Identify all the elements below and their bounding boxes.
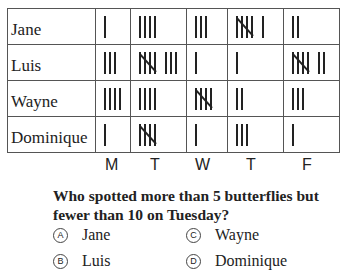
tally-group [104,124,109,146]
tally-marks [131,117,186,152]
tally-cell [228,45,284,81]
tally-marks [284,117,339,152]
table-row: Luis [8,45,340,81]
tally-stick [236,52,238,74]
tally-cell [284,9,340,45]
tally-stick [139,16,141,38]
tally-stick [236,88,238,110]
answer-bubble-b[interactable]: B [53,254,68,269]
tally-stick [205,16,207,38]
day-label-fri: F [302,156,312,174]
tally-stick [149,88,151,110]
tally-group [195,52,200,74]
option-d[interactable]: D Dominique [186,252,287,270]
tally-stick [195,52,197,74]
tally-group [292,124,297,146]
table-row: Dominique [8,117,340,153]
tally-stick [104,88,106,110]
answer-bubble-c[interactable]: C [186,228,201,243]
student-name: Wayne [8,81,96,117]
tally-stick [114,88,116,110]
tally-group [195,124,200,146]
tally-marks [96,45,130,80]
tally-group [139,16,159,38]
tally-cell [228,117,284,153]
tally-marks [284,45,339,80]
tally-group [104,16,109,38]
tally-stick [246,124,248,146]
answer-bubble-a[interactable]: A [53,228,68,243]
tally-marks [187,81,227,116]
tally-group [139,124,159,146]
tally-marks [96,117,130,152]
tally-marks [284,9,339,44]
option-b[interactable]: B Luis [53,252,110,270]
tally-group [165,52,180,74]
tally-group [139,88,159,110]
student-name: Dominique [8,117,96,153]
student-name: Jane [8,9,96,45]
tally-group [139,52,159,74]
day-label-mon: M [105,156,118,174]
tally-stick [104,124,106,146]
tally-cell [187,81,228,117]
tally-group [236,88,246,110]
tally-group [104,52,119,74]
option-a[interactable]: A Jane [53,226,110,244]
table-row: Jane [8,9,340,45]
day-label-thu: T [246,156,256,174]
tally-marks [187,117,227,152]
tally-cell [96,117,131,153]
day-labels: M T W T F [0,156,344,176]
table-row: Wayne [8,81,340,117]
tally-marks [96,9,130,44]
tally-stick [241,88,243,110]
tally-cell [131,45,187,81]
tally-stick [262,16,264,38]
tally-marks [131,81,186,116]
tally-marks [228,117,283,152]
tally-cell [131,9,187,45]
tally-marks [187,45,227,80]
option-c[interactable]: C Wayne [186,226,259,244]
tally-cell [96,9,131,45]
tally-cell [131,117,187,153]
tally-group [262,16,267,38]
tally-stick [297,16,299,38]
tally-stick [297,88,299,110]
tally-group [292,88,307,110]
tally-stick [241,124,243,146]
tally-stick [114,52,116,74]
tally-marks [284,81,339,116]
tally-stick [323,52,325,74]
tally-cell [187,117,228,153]
tally-cell [284,117,340,153]
tally-cell [96,81,131,117]
tally-stick [104,52,106,74]
tally-marks [187,9,227,44]
tally-stick [175,52,177,74]
tally-marks [96,81,130,116]
answer-bubble-d[interactable]: D [186,254,201,269]
tally-group [236,124,251,146]
tally-stick [149,16,151,38]
tally-group [292,52,312,74]
tally-group [236,52,241,74]
tally-stick [165,52,167,74]
tally-stick [109,52,111,74]
tally-table: JaneLuisWayneDominique [7,8,340,153]
tally-group [318,52,328,74]
tally-stick [170,52,172,74]
option-b-label: Luis [82,252,110,270]
day-label-wed: W [195,156,210,174]
option-d-label: Dominique [215,252,287,270]
tally-cell [131,81,187,117]
tally-stick [292,124,294,146]
tally-cell [284,45,340,81]
question-text: Who spotted more than 5 butterflies but … [53,186,343,224]
tally-marks [131,9,186,44]
tally-marks [131,45,186,80]
tally-stick [154,88,156,110]
tally-marks [228,45,283,80]
tally-stick [109,88,111,110]
